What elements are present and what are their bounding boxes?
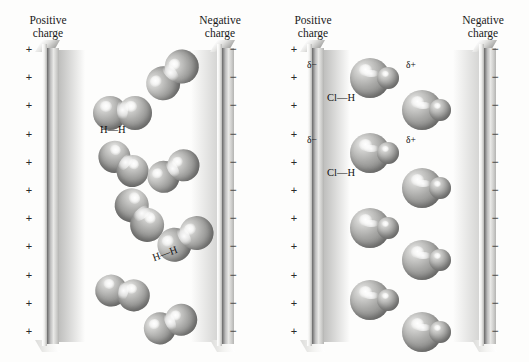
positive-charge-header-right: Positive charge	[273, 14, 353, 39]
plus-charge-mark: +	[291, 270, 297, 280]
plus-charge-mark: +	[291, 298, 297, 308]
plus-charge-mark: +	[26, 270, 32, 280]
figure-canvas: Positive charge Negative charge ++++++++…	[0, 0, 529, 362]
molecule	[402, 240, 451, 280]
negative-charge-header-right: Negative charge	[443, 14, 523, 39]
positive-plate-left	[40, 40, 86, 352]
negative-charge-marks-left: −−−−−−−−−−−	[226, 44, 240, 336]
plus-charge-mark: +	[291, 185, 297, 195]
bond-highlight	[117, 99, 128, 121]
plus-charge-mark: +	[26, 44, 32, 54]
plus-charge-mark: +	[26, 100, 32, 110]
minus-charge-mark: −	[229, 185, 236, 195]
plus-charge-mark: +	[26, 241, 32, 251]
plus-charge-mark: +	[26, 326, 32, 336]
minus-charge-mark: −	[229, 241, 236, 251]
molecule-label-hh-1: H—H	[100, 124, 126, 135]
atom-hydrogen	[377, 289, 399, 311]
minus-charge-mark: −	[229, 157, 236, 167]
negative-charge-header-left: Negative charge	[180, 14, 260, 39]
minus-charge-mark: −	[491, 298, 498, 308]
plate-shadow	[191, 50, 217, 342]
plus-charge-mark: +	[291, 241, 297, 251]
delta-plus-label-1: δ+	[406, 60, 416, 70]
atom-hydrogen	[377, 217, 399, 239]
plus-charge-mark: +	[291, 129, 297, 139]
plus-charge-mark: +	[26, 129, 32, 139]
plate-shadow	[59, 50, 85, 342]
plus-charge-mark: +	[291, 326, 297, 336]
molecule	[402, 90, 451, 130]
plus-charge-mark: +	[291, 157, 297, 167]
plus-charge-mark: +	[26, 298, 32, 308]
plus-charge-mark: +	[291, 72, 297, 82]
minus-charge-mark: −	[229, 44, 236, 54]
atom-highlight	[100, 101, 112, 111]
molecule-label-clh-1: Cl—H	[327, 92, 355, 103]
positive-charge-marks-right: +++++++++++	[287, 44, 301, 336]
minus-charge-mark: −	[491, 157, 498, 167]
plus-charge-mark: +	[26, 185, 32, 195]
atom-hydrogen	[429, 321, 451, 343]
header-line-1: Positive	[8, 14, 88, 27]
molecule-label-clh-2: Cl—H	[327, 167, 355, 178]
plus-charge-mark: +	[291, 213, 297, 223]
molecule	[350, 133, 399, 173]
molecule	[350, 208, 399, 248]
header-line-1: Negative	[443, 14, 523, 27]
atom-hydrogen	[377, 67, 399, 89]
header-line-2: charge	[180, 27, 260, 40]
minus-charge-mark: −	[491, 100, 498, 110]
minus-charge-mark: −	[491, 241, 498, 251]
panel-polar: Positive charge Negative charge ++++++++…	[265, 0, 529, 362]
header-line-2: charge	[443, 27, 523, 40]
plate-face	[46, 48, 59, 344]
header-line-2: charge	[273, 27, 353, 40]
plate-side-edge	[479, 44, 484, 346]
minus-charge-mark: −	[491, 326, 498, 336]
minus-charge-mark: −	[491, 129, 498, 139]
panel-nonpolar: Positive charge Negative charge ++++++++…	[0, 0, 265, 362]
delta-plus-label-2: δ+	[406, 135, 416, 145]
plus-charge-mark: +	[26, 157, 32, 167]
molecule	[350, 58, 399, 98]
header-line-1: Negative	[180, 14, 260, 27]
delta-minus-label-2: δ−	[307, 135, 317, 145]
delta-minus-label-1: δ−	[307, 60, 317, 70]
minus-charge-mark: −	[229, 129, 236, 139]
minus-charge-mark: −	[491, 270, 498, 280]
atom-hydrogen	[429, 249, 451, 271]
plate-side-edge	[307, 44, 312, 346]
minus-charge-mark: −	[229, 326, 236, 336]
atom-hydrogen	[377, 142, 399, 164]
minus-charge-mark: −	[229, 213, 236, 223]
header-line-1: Positive	[273, 14, 353, 27]
positive-charge-marks-left: +++++++++++	[22, 44, 36, 336]
minus-charge-mark: −	[491, 72, 498, 82]
plate-shadow	[453, 50, 479, 342]
header-line-2: charge	[8, 27, 88, 40]
molecule	[350, 280, 399, 320]
plus-charge-mark: +	[26, 213, 32, 223]
minus-charge-mark: −	[229, 72, 236, 82]
negative-charge-marks-right: −−−−−−−−−−−	[488, 44, 502, 336]
plus-charge-mark: +	[26, 72, 32, 82]
minus-charge-mark: −	[491, 213, 498, 223]
molecule	[92, 134, 155, 193]
minus-charge-mark: −	[229, 298, 236, 308]
plate-side-edge	[42, 44, 47, 346]
positive-plate-right	[305, 40, 351, 352]
minus-charge-mark: −	[229, 100, 236, 110]
atom-hydrogen	[429, 99, 451, 121]
molecule	[92, 272, 153, 315]
plus-charge-mark: +	[291, 100, 297, 110]
positive-charge-header-left: Positive charge	[8, 14, 88, 39]
molecule	[402, 168, 451, 208]
minus-charge-mark: −	[491, 44, 498, 54]
minus-charge-mark: −	[491, 185, 498, 195]
plate-face	[311, 48, 324, 344]
molecule	[402, 312, 451, 352]
plate-side-edge	[217, 44, 222, 346]
plus-charge-mark: +	[291, 44, 297, 54]
minus-charge-mark: −	[229, 270, 236, 280]
